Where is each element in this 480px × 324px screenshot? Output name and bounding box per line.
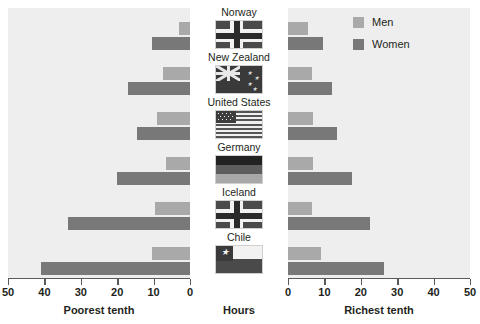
country-row-iceland: Iceland xyxy=(194,186,284,231)
flag-germany-icon xyxy=(215,155,263,184)
bar-women-germany xyxy=(288,172,352,185)
country-row-new-zealand: New Zealand ★ ★ ★ ★ xyxy=(194,51,284,96)
axis-tick xyxy=(470,279,471,285)
bar-group-new-zealand xyxy=(8,59,190,104)
axis-tick xyxy=(288,279,289,285)
bar-men-iceland xyxy=(155,202,190,215)
bar-group-united-states xyxy=(8,104,190,149)
axis-tick-label: 10 xyxy=(318,286,330,298)
axis-tick xyxy=(117,279,118,285)
bar-women-new-zealand xyxy=(128,82,190,95)
axis-tick-label: 0 xyxy=(187,286,193,298)
legend-label-men: Men xyxy=(372,14,393,30)
legend-label-women: Women xyxy=(372,36,410,52)
axis-tick xyxy=(81,279,82,285)
x-axis-poorest-tenth xyxy=(8,278,190,285)
chart-panel-poorest-tenth xyxy=(8,8,190,278)
flag-norway-icon xyxy=(215,20,263,49)
axis-tick xyxy=(44,279,45,285)
bar-men-norway xyxy=(288,22,308,35)
axis-tick xyxy=(434,279,435,285)
bar-group-norway xyxy=(8,14,190,59)
axis-tick-label: 20 xyxy=(111,286,123,298)
axis-tick-label: 20 xyxy=(355,286,367,298)
bar-women-united-states xyxy=(288,127,337,140)
bar-group-new-zealand xyxy=(288,59,470,104)
bar-women-chile xyxy=(41,262,190,275)
legend-swatch-men xyxy=(353,17,364,28)
bar-men-germany xyxy=(288,157,313,170)
axis-caption-richest-tenth: Richest tenth xyxy=(344,304,414,316)
bar-women-united-states xyxy=(137,127,190,140)
axis-tick-label: 40 xyxy=(38,286,50,298)
bar-group-germany xyxy=(288,149,470,194)
country-label: Chile xyxy=(194,231,284,244)
flag-chile-icon: ★ xyxy=(215,245,263,274)
axis-tick xyxy=(190,279,191,285)
bar-women-new-zealand xyxy=(288,82,332,95)
bar-group-iceland xyxy=(288,194,470,239)
country-label: Germany xyxy=(194,141,284,154)
axis-caption-hours: Hours xyxy=(223,304,255,316)
bar-women-iceland xyxy=(288,217,370,230)
country-label: Norway xyxy=(194,6,284,19)
bar-women-iceland xyxy=(68,217,190,230)
bar-men-united-states xyxy=(157,112,190,125)
axis-tick xyxy=(397,279,398,285)
x-axis-richest-tenth xyxy=(288,278,470,285)
axis-tick xyxy=(154,279,155,285)
bar-group-germany xyxy=(8,149,190,194)
bar-men-chile xyxy=(288,247,321,260)
axis-tick-label: 50 xyxy=(2,286,14,298)
bar-men-new-zealand xyxy=(163,67,190,80)
country-row-united-states: United States xyxy=(194,96,284,141)
chart-figure: Norway New Zealand ★ ★ ★ ★ United States xyxy=(0,0,480,324)
country-label-column: Norway New Zealand ★ ★ ★ ★ United States xyxy=(194,0,284,290)
bar-men-germany xyxy=(166,157,190,170)
bar-men-new-zealand xyxy=(288,67,312,80)
axis-tick-label: 30 xyxy=(391,286,403,298)
flag-united-states-icon xyxy=(215,110,263,139)
bar-women-norway xyxy=(288,37,323,50)
country-label: New Zealand xyxy=(194,51,284,64)
flag-iceland-icon xyxy=(215,200,263,229)
axis-caption-poorest-tenth: Poorest tenth xyxy=(64,304,135,316)
axis-tick-label: 10 xyxy=(147,286,159,298)
country-row-norway: Norway xyxy=(194,6,284,51)
axis-tick-label: 50 xyxy=(464,286,476,298)
axis-tick xyxy=(324,279,325,285)
bar-women-chile xyxy=(288,262,384,275)
axis-tick xyxy=(361,279,362,285)
bar-women-germany xyxy=(117,172,190,185)
bar-group-iceland xyxy=(8,194,190,239)
bar-men-united-states xyxy=(288,112,313,125)
country-label: United States xyxy=(194,96,284,109)
country-label: Iceland xyxy=(194,186,284,199)
legend-swatch-women xyxy=(353,39,364,50)
bar-men-iceland xyxy=(288,202,312,215)
bar-men-chile xyxy=(152,247,190,260)
axis-tick-label: 40 xyxy=(427,286,439,298)
axis-tick xyxy=(8,279,9,285)
flag-new-zealand-icon: ★ ★ ★ ★ xyxy=(215,65,263,94)
country-row-chile: Chile ★ xyxy=(194,231,284,276)
bar-men-norway xyxy=(179,22,190,35)
axis-tick-label: 0 xyxy=(285,286,291,298)
bar-women-norway xyxy=(152,37,190,50)
country-row-germany: Germany xyxy=(194,141,284,186)
bar-group-united-states xyxy=(288,104,470,149)
axis-tick-label: 30 xyxy=(75,286,87,298)
